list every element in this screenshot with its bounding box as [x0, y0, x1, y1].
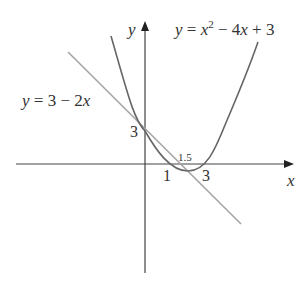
graph-figure: y x y = x2 − 4x + 3 y = 3 − 2x 3 1 3 1.5: [0, 0, 303, 287]
parabola-equation: y = x2 − 4x + 3: [173, 18, 274, 39]
root-3-label: 3: [202, 167, 210, 184]
line-equation: y = 3 − 2x: [20, 91, 91, 110]
y-intercept-label: 3: [130, 123, 138, 140]
x-axis-label: x: [286, 171, 295, 190]
line-y-3-minus-2x: [68, 52, 241, 224]
root-1-label: 1: [163, 167, 171, 184]
x-axis-arrow-icon: [284, 160, 294, 168]
line-x-intercept-label: 1.5: [178, 151, 192, 163]
y-axis-label: y: [126, 20, 136, 39]
y-axis-arrow-icon: [141, 21, 149, 31]
